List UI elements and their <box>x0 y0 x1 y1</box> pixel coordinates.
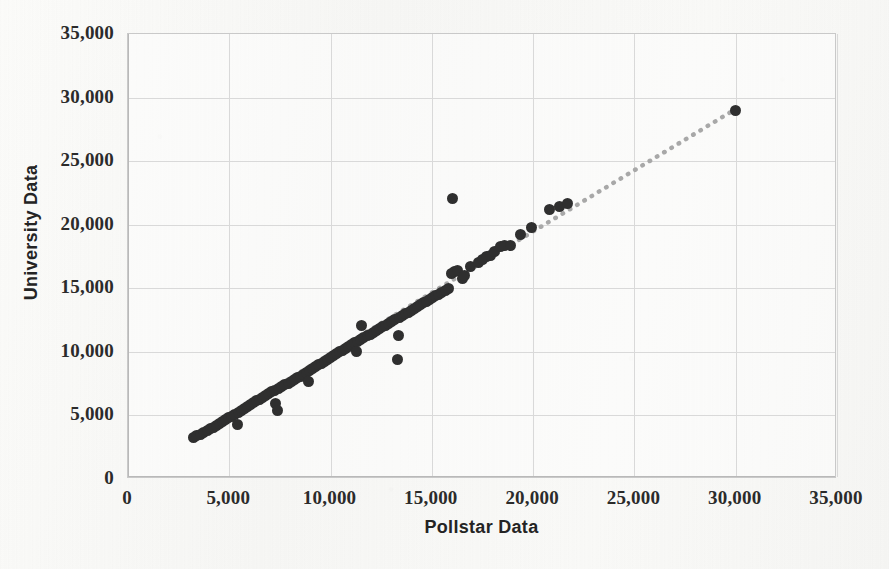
x-tick-label: 35,000 <box>809 487 862 509</box>
y-tick-label: 35,000 <box>61 22 114 44</box>
y-axis-title: University Data <box>21 118 42 348</box>
data-point <box>351 346 362 357</box>
x-axis-tick-labels: 05,00010,00015,00020,00025,00030,00035,0… <box>127 487 836 513</box>
data-point <box>303 376 314 387</box>
plot-area <box>127 33 836 478</box>
y-tick-label: 30,000 <box>61 86 114 108</box>
scatter-chart-figure: 05,00010,00015,00020,00025,00030,00035,0… <box>0 0 889 569</box>
data-point-series <box>128 34 835 477</box>
data-point <box>232 419 243 430</box>
data-point <box>730 105 741 116</box>
y-tick-label: 5,000 <box>70 403 114 425</box>
data-point <box>392 354 403 365</box>
data-point <box>356 320 367 331</box>
gridline-vertical <box>837 34 838 477</box>
y-tick-label: 10,000 <box>61 340 114 362</box>
data-point <box>562 198 573 209</box>
y-axis-tick-labels: 05,00010,00015,00020,00025,00030,00035,0… <box>0 33 114 478</box>
data-point <box>272 405 283 416</box>
data-point <box>393 330 404 341</box>
x-tick-label: 5,000 <box>206 487 250 509</box>
x-axis-title: Pollstar Data <box>127 517 836 538</box>
data-point <box>515 229 526 240</box>
x-tick-label: 10,000 <box>303 487 356 509</box>
data-point <box>526 222 537 233</box>
data-point <box>447 193 458 204</box>
y-tick-label: 0 <box>104 467 114 489</box>
x-tick-label: 30,000 <box>708 487 761 509</box>
x-tick-label: 15,000 <box>404 487 457 509</box>
data-point <box>505 240 516 251</box>
x-tick-label: 20,000 <box>505 487 558 509</box>
y-tick-label: 15,000 <box>61 276 114 298</box>
y-tick-label: 20,000 <box>61 213 114 235</box>
x-tick-label: 25,000 <box>607 487 660 509</box>
y-tick-label: 25,000 <box>61 149 114 171</box>
x-tick-label: 0 <box>122 487 132 509</box>
data-point <box>443 283 454 294</box>
